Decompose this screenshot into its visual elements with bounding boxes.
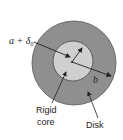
outer-radius-label: b xyxy=(93,74,98,85)
center-point xyxy=(71,61,73,63)
inner-radius-label: a + δ0 xyxy=(9,35,33,47)
disk-label: Disk xyxy=(86,120,104,130)
disk-diagram: a + δ0 b Rigid core Disk xyxy=(0,0,123,140)
core-label-line1: Rigid xyxy=(36,105,57,115)
core-label-line2: core xyxy=(37,117,55,127)
